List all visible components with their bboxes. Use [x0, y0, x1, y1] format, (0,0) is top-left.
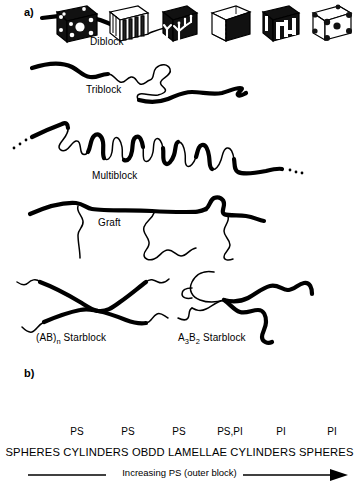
- figure-root: a): [0, 0, 359, 488]
- triblock-label: Triblock: [86, 84, 121, 95]
- cube-cylinders-pi: [257, 0, 305, 46]
- graft-chain: [30, 197, 264, 260]
- cube-lamellae: [206, 0, 254, 46]
- cube-spheres-pi: [308, 0, 356, 46]
- cube-caption-spheres-pi: PI: [302, 426, 359, 437]
- a3b2-starblock-label-sub1: 3: [185, 337, 189, 346]
- a3b2-starblock-label: A3B2 Starblock: [178, 332, 246, 343]
- gradient-caption: Increasing PS (outer block): [0, 467, 359, 478]
- cube-cylinders-ps: [104, 0, 152, 46]
- multiblock-chain: [13, 123, 304, 174]
- triblock-thick-block-1: [32, 63, 108, 77]
- a3b2-starblock-label-suffix: Starblock: [200, 332, 245, 343]
- a3b2-starblock-label-b: B: [189, 332, 196, 343]
- architecture-drawings: [0, 0, 359, 360]
- panel-b-label: b): [24, 367, 34, 379]
- cube-spheres-ps: [53, 0, 101, 46]
- morphology-row: SPHERES CYLINDERS OBDD LAMELLAE CYLINDER…: [0, 446, 359, 458]
- abn-starblock-label: (AB)n Starblock: [36, 332, 106, 343]
- cube-obdd-ps: [155, 0, 203, 46]
- a3b2-starblock-label-sub2: 2: [196, 337, 200, 346]
- graft-label: Graft: [98, 217, 121, 228]
- abn-starblock-label-sub: n: [56, 337, 60, 346]
- abn-starblock-label-suffix: Starblock: [61, 332, 106, 343]
- a3b2-starblock-label-a: A: [178, 332, 185, 343]
- abn-starblock-chain: [17, 279, 169, 332]
- abn-starblock-label-base: (AB): [36, 332, 56, 343]
- multiblock-label: Multiblock: [92, 170, 137, 181]
